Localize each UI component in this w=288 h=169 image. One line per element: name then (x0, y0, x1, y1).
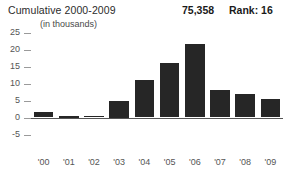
bar[interactable] (235, 94, 255, 118)
y-axis-tick-mark (24, 101, 31, 102)
chart-panel: Cumulative 2000-2009 75,358 Rank: 16 (in… (0, 0, 288, 169)
x-axis-tick-label: '02 (81, 157, 107, 167)
y-axis-tick-mark (24, 118, 31, 119)
bar[interactable] (84, 116, 104, 118)
x-axis-tick-label: '06 (182, 157, 208, 167)
bar[interactable] (34, 112, 54, 117)
y-axis-tick-mark (24, 67, 31, 68)
y-axis-tick-mark (24, 84, 31, 85)
bar[interactable] (59, 116, 79, 118)
x-axis-tick-label: '04 (131, 157, 157, 167)
y-axis-tick-label: 15 (0, 62, 20, 71)
y-axis-tick-label: 25 (0, 28, 20, 37)
bar[interactable] (135, 80, 155, 117)
y-axis-tick-mark (24, 33, 31, 34)
y-axis-tick-label: 0 (0, 113, 20, 122)
bar[interactable] (185, 44, 205, 117)
bar[interactable] (109, 101, 129, 118)
bar[interactable] (160, 63, 180, 117)
x-axis-tick-label: '00 (31, 157, 57, 167)
y-axis-tick-mark (24, 50, 31, 51)
x-axis-tick-label: '09 (257, 157, 283, 167)
y-axis-tick-label: 20 (0, 45, 20, 54)
x-axis-tick-label: '08 (232, 157, 258, 167)
x-axis-tick-label: '01 (56, 157, 82, 167)
zero-baseline (31, 118, 283, 120)
y-axis-tick-label: 5 (0, 96, 20, 105)
y-axis-tick-mark (24, 135, 31, 136)
bar[interactable] (261, 99, 281, 118)
x-axis-tick-label: '07 (207, 157, 233, 167)
y-axis-tick-label: -5 (0, 130, 20, 139)
y-axis-tick-label: 10 (0, 79, 20, 88)
x-axis-tick-label: '03 (106, 157, 132, 167)
bar[interactable] (210, 90, 230, 117)
bar-chart-plot: 2520151050-5'00'01'02'03'04'05'06'07'08'… (0, 0, 288, 169)
x-axis-tick-label: '05 (157, 157, 183, 167)
